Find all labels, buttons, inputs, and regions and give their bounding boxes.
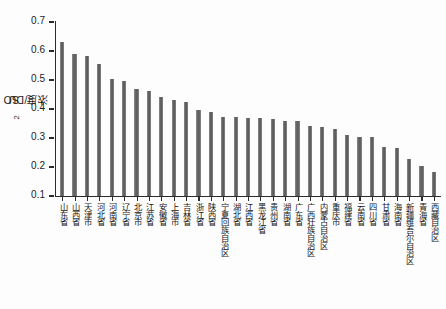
bar xyxy=(407,159,411,196)
x-tick-mark xyxy=(260,197,261,201)
x-axis-label: 海南省 xyxy=(392,203,401,226)
bar xyxy=(357,137,361,196)
bar xyxy=(395,148,399,196)
x-axis-label: 河北省 xyxy=(95,203,104,226)
x-tick-mark xyxy=(198,197,199,201)
x-axis-label: 湖南省 xyxy=(281,203,290,226)
bar xyxy=(172,100,176,196)
x-tick-mark xyxy=(124,197,125,201)
x-tick-mark xyxy=(137,197,138,201)
x-tick-mark xyxy=(99,197,100,201)
y-axis-title-text: SO2浓度/DU xyxy=(0,80,36,119)
x-axis-label: 吉林省 xyxy=(182,203,191,226)
bar xyxy=(60,42,64,196)
x-axis-label: 甘肃省 xyxy=(380,203,389,226)
y-tick-mark xyxy=(49,166,54,167)
x-axis-label: 浙江省 xyxy=(194,203,203,226)
x-axis-label: 安徽省 xyxy=(157,203,166,226)
x-axis-label: 内蒙古自治区 xyxy=(318,203,327,249)
bar xyxy=(110,79,114,196)
bar xyxy=(295,121,299,196)
x-tick-mark xyxy=(236,197,237,201)
x-axis-label: 辽宁省 xyxy=(120,203,129,226)
chart-figure: SO2浓度/DU 0.70.60.50.40.30.20.1 山东省山西省天津市… xyxy=(0,0,446,309)
x-axis-label: 福建省 xyxy=(343,203,352,226)
bar xyxy=(432,172,436,196)
bar xyxy=(159,97,163,196)
bar xyxy=(85,56,89,196)
x-tick-mark xyxy=(372,197,373,201)
x-axis-label: 新疆维吾尔自治区 xyxy=(405,203,414,265)
y-tick-label: 0.7 xyxy=(0,15,45,26)
bar xyxy=(419,166,423,196)
x-tick-mark xyxy=(186,197,187,201)
x-tick-mark xyxy=(211,197,212,201)
x-tick-mark xyxy=(75,197,76,201)
x-axis-label: 河南省 xyxy=(108,203,117,226)
bar xyxy=(72,54,76,196)
bar xyxy=(370,137,374,196)
x-tick-mark xyxy=(397,197,398,201)
bar xyxy=(122,81,126,196)
x-axis-label: 黑龙江省 xyxy=(256,203,265,234)
x-axis-label: 上海市 xyxy=(169,203,178,226)
bar xyxy=(134,89,138,196)
y-tick-label: 0.1 xyxy=(0,189,45,200)
x-tick-mark xyxy=(112,197,113,201)
bar xyxy=(147,91,151,196)
bar xyxy=(97,64,101,196)
x-tick-mark xyxy=(62,197,63,201)
x-tick-mark xyxy=(87,197,88,201)
bar xyxy=(333,129,337,196)
x-tick-mark xyxy=(248,197,249,201)
bar xyxy=(246,118,250,196)
bar xyxy=(234,117,238,196)
x-tick-mark xyxy=(421,197,422,201)
x-axis-label: 江苏省 xyxy=(145,203,154,226)
x-tick-mark xyxy=(409,197,410,201)
bar xyxy=(320,127,324,196)
x-axis-label: 广东省 xyxy=(293,203,302,226)
y-tick-mark xyxy=(49,195,54,196)
x-tick-mark xyxy=(322,197,323,201)
x-tick-mark xyxy=(434,197,435,201)
y-tick-mark xyxy=(49,50,54,51)
x-axis-label: 天津市 xyxy=(83,203,92,226)
bar xyxy=(345,135,349,196)
y-tick-label: 0.4 xyxy=(0,102,45,113)
x-tick-mark xyxy=(384,197,385,201)
bar xyxy=(283,121,287,196)
x-axis-label: 贵州省 xyxy=(269,203,278,226)
y-tick-mark xyxy=(49,137,54,138)
x-tick-mark xyxy=(347,197,348,201)
x-tick-mark xyxy=(223,197,224,201)
x-tick-mark xyxy=(273,197,274,201)
bar xyxy=(221,117,225,196)
x-tick-mark xyxy=(310,197,311,201)
bar xyxy=(382,147,386,196)
x-axis-label: 湖北省 xyxy=(231,203,240,226)
y-tick-mark xyxy=(49,79,54,80)
x-tick-mark xyxy=(161,197,162,201)
y-tick-mark xyxy=(49,108,54,109)
bar xyxy=(184,102,188,196)
x-tick-mark xyxy=(174,197,175,201)
x-axis-label: 西藏自治区 xyxy=(430,203,439,242)
x-tick-mark xyxy=(149,197,150,201)
x-axis-label: 山西省 xyxy=(70,203,79,226)
x-tick-mark xyxy=(359,197,360,201)
x-axis-label: 山东省 xyxy=(58,203,67,226)
y-tick-label: 0.6 xyxy=(0,44,45,55)
bar xyxy=(209,112,213,196)
x-axis-label: 江西省 xyxy=(244,203,253,226)
y-tick-label: 0.3 xyxy=(0,131,45,142)
x-axis-label: 重庆市 xyxy=(331,203,340,226)
x-axis-label: 青海省 xyxy=(417,203,426,226)
bar xyxy=(271,119,275,196)
x-axis-label: 四川省 xyxy=(368,203,377,226)
y-tick-label: 0.2 xyxy=(0,160,45,171)
y-tick-mark xyxy=(49,21,54,22)
x-axis-label: 北京市 xyxy=(132,203,141,226)
x-axis-label: 陕西省 xyxy=(207,203,216,226)
x-axis-label: 云南省 xyxy=(355,203,364,226)
